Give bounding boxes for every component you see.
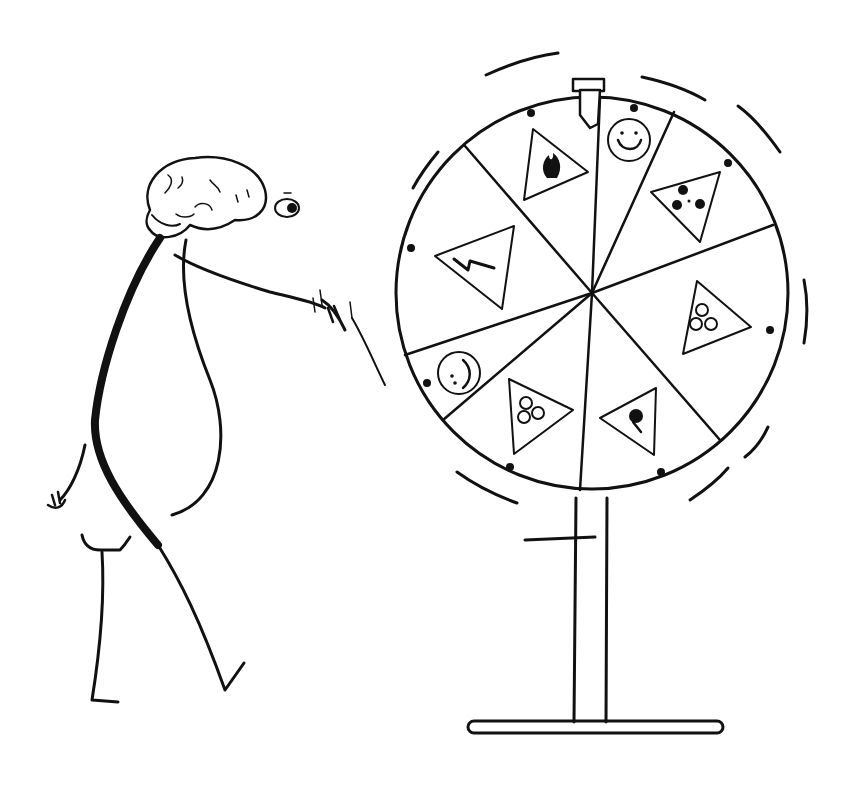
high-voltage-icon bbox=[435, 226, 514, 309]
smiley-icon bbox=[438, 352, 480, 394]
flammable-icon bbox=[524, 129, 588, 200]
biohazard-icon bbox=[683, 281, 751, 354]
radiation-icon bbox=[651, 172, 720, 242]
drawing bbox=[0, 0, 850, 790]
brain-head-icon bbox=[147, 157, 266, 237]
wheel-stand bbox=[468, 498, 723, 733]
wheel-spokes bbox=[405, 97, 773, 490]
wheel-pointer bbox=[573, 79, 604, 128]
stick-figure bbox=[48, 157, 385, 702]
eye-icon bbox=[275, 193, 299, 217]
prize-wheel[interactable] bbox=[396, 79, 788, 490]
explosive-icon bbox=[600, 388, 656, 455]
smiley-icon bbox=[608, 119, 650, 161]
illustration bbox=[0, 0, 850, 790]
biohazard-icon bbox=[509, 379, 573, 454]
